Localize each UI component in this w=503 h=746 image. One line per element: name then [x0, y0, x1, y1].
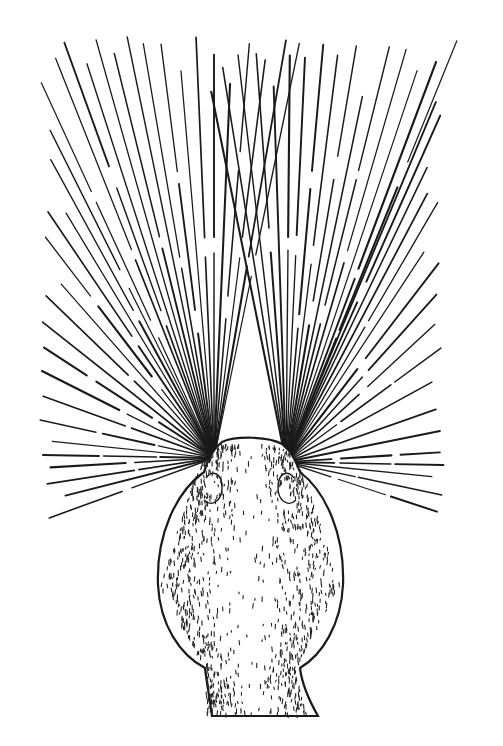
whisker-stroke — [61, 284, 214, 458]
whisker-stroke — [408, 41, 457, 162]
head-outline — [158, 438, 343, 716]
whisker-stroke — [401, 452, 440, 454]
whisker-stroke — [359, 47, 390, 171]
whisker-stroke — [299, 189, 310, 314]
whisker-stroke — [297, 58, 305, 236]
animal-head — [158, 438, 343, 718]
whisker-stroke — [366, 116, 440, 282]
whisker-stroke — [223, 67, 286, 462]
whisker-stroke — [46, 237, 91, 296]
whisker-stroke — [286, 252, 424, 462]
whisker-stroke — [369, 203, 438, 321]
whisker-stroke — [286, 71, 417, 462]
whisker-stroke — [288, 56, 290, 237]
whisker-stroke — [358, 477, 441, 495]
whisker-stroke — [49, 491, 122, 517]
whisker-stroke — [51, 463, 126, 467]
whisker-stroke — [103, 434, 155, 445]
whiskered-head-illustration — [0, 0, 503, 746]
whisker-stroke — [50, 130, 120, 269]
whisker-stroke — [196, 37, 205, 237]
whisker-stroke — [104, 456, 157, 457]
whisker-stroke — [395, 464, 443, 465]
whisker-stroke — [43, 322, 214, 458]
whisker-stroke — [312, 45, 323, 171]
whisker-stroke — [391, 496, 437, 511]
whisker-stroke — [56, 58, 132, 249]
whisker-stroke — [313, 55, 337, 245]
whisker-stroke — [286, 97, 362, 462]
whisker-stroke — [40, 420, 96, 432]
whisker-stroke — [340, 463, 391, 464]
whisker-stroke — [395, 348, 441, 382]
whisker-stroke — [286, 168, 427, 462]
whisker-stroke — [43, 455, 99, 456]
whisker-stroke — [161, 44, 177, 171]
whisker-stroke — [341, 455, 391, 458]
whisker-stroke — [43, 396, 125, 426]
whisker-stroke — [42, 371, 119, 410]
whisker-stroke — [366, 263, 439, 358]
whisker-stroke — [359, 62, 436, 269]
